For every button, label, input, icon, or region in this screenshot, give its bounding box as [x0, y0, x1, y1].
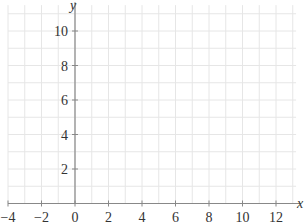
x-tick-label: 10	[236, 210, 250, 224]
x-tick-label: 4	[139, 210, 146, 224]
y-tick-label: 10	[54, 24, 68, 39]
x-tick-label: 12	[269, 210, 283, 224]
x-tick-label: −2	[34, 210, 49, 224]
x-axis-label: x	[296, 196, 304, 211]
grid-lines	[8, 5, 296, 203]
x-tick-label: 8	[206, 210, 213, 224]
x-tick-label: −4	[1, 210, 16, 224]
y-axis-label: y	[68, 0, 77, 13]
x-tick-label: 0	[72, 210, 79, 224]
x-tick-label: 6	[172, 210, 179, 224]
x-tick-label: 2	[105, 210, 112, 224]
coordinate-plane: −4−2024681012 246810 x y	[0, 0, 306, 223]
y-tick-label: 8	[61, 59, 68, 74]
axes	[8, 2, 301, 203]
y-tick-label: 6	[61, 93, 68, 108]
y-tick-label: 2	[61, 162, 68, 177]
y-tick-label: 4	[61, 128, 68, 143]
